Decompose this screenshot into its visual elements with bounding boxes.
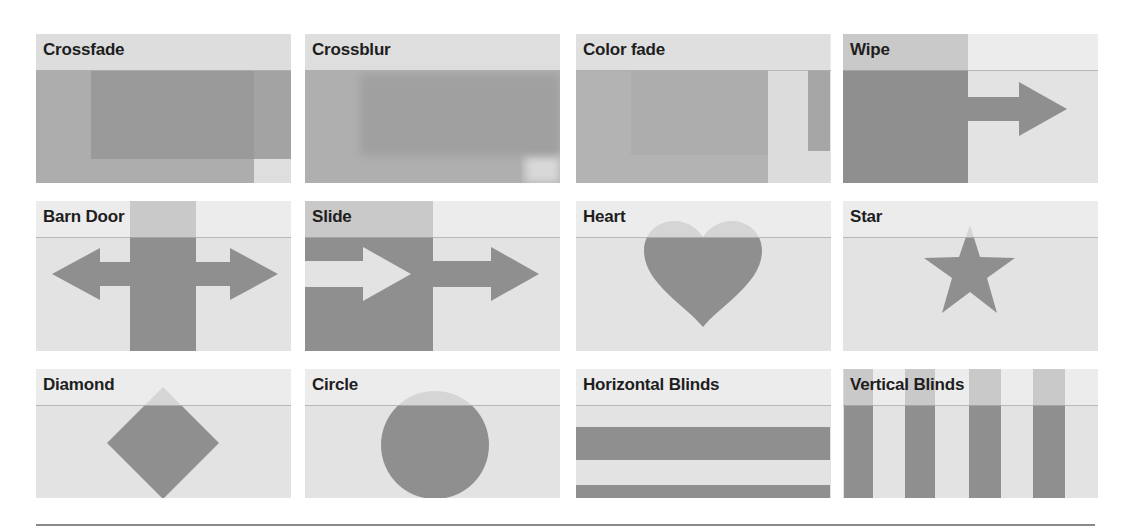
tile-label: Star [850,207,882,227]
transition-tile-circle[interactable]: Circle [305,369,560,498]
tile-label: Color fade [583,40,665,60]
transition-tile-heart[interactable]: Heart [576,201,831,351]
transition-tile-slide[interactable]: Slide [305,201,560,351]
transition-tile-barn-door[interactable]: Barn Door [36,201,291,351]
transition-tile-color-fade[interactable]: Color fade [576,34,831,183]
tile-label: Wipe [850,40,890,60]
tile-label: Heart [583,207,625,227]
tile-label: Crossblur [312,40,391,60]
transition-tile-star[interactable]: Star [843,201,1098,351]
tile-label: Horizontal Blinds [583,375,719,395]
transition-tile-horizontal-blinds[interactable]: Horizontal Blinds [576,369,831,498]
transition-tile-crossfade[interactable]: Crossfade [36,34,291,183]
transition-tile-vertical-blinds[interactable]: Vertical Blinds [843,369,1098,498]
transition-tile-diamond[interactable]: Diamond [36,369,291,498]
tile-label: Vertical Blinds [850,375,964,395]
tile-label: Diamond [43,375,114,395]
tile-label: Barn Door [43,207,124,227]
tile-label: Crossfade [43,40,124,60]
transition-tile-wipe[interactable]: Wipe [843,34,1098,183]
tile-label: Circle [312,375,358,395]
transition-tile-crossblur[interactable]: Crossblur [305,34,560,183]
tile-label: Slide [312,207,352,227]
bottom-divider [36,524,1095,526]
